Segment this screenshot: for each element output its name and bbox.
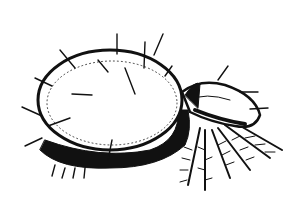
legs: [180, 120, 282, 190]
mite-drawing: [0, 0, 297, 206]
illustration-canvas: [0, 0, 297, 206]
notogaster-shell: [38, 50, 182, 150]
